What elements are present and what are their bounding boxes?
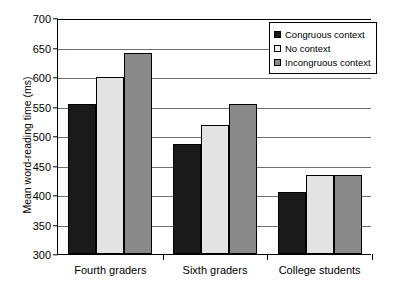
legend: Congruous contextNo contextIncongruous c…: [269, 22, 377, 74]
bar: [96, 77, 124, 254]
y-tick-label: 600: [33, 72, 51, 84]
bar: [201, 125, 229, 254]
bar-group: [163, 19, 268, 254]
x-tick-mark: [372, 254, 373, 260]
legend-swatch: [274, 59, 281, 66]
legend-item: Congruous context: [274, 27, 371, 41]
legend-item: Incongruous context: [274, 55, 371, 69]
y-tick-label: 550: [33, 102, 51, 114]
x-tick-label: Sixth graders: [183, 264, 248, 276]
y-tick-label: 450: [33, 161, 51, 173]
bar: [124, 53, 152, 254]
plot-area: 300350400450500550600650700 Fourth grade…: [57, 19, 371, 255]
y-tick-label: 650: [33, 43, 51, 55]
legend-label: Incongruous context: [285, 57, 371, 68]
bar: [306, 175, 334, 254]
bar: [334, 175, 362, 254]
y-tick-mark: [53, 254, 58, 255]
y-tick-label: 350: [33, 220, 51, 232]
legend-label: Congruous context: [285, 29, 365, 40]
y-tick-label: 500: [33, 131, 51, 143]
bar: [68, 104, 96, 254]
legend-swatch: [274, 45, 281, 52]
x-tick-label: College students: [279, 264, 361, 276]
legend-item: No context: [274, 41, 371, 55]
legend-swatch: [274, 31, 281, 38]
x-tick-label: Fourth graders: [74, 264, 146, 276]
y-tick-label: 400: [33, 190, 51, 202]
bar-group: [58, 19, 163, 254]
bar: [229, 104, 257, 254]
y-tick-label: 700: [33, 13, 51, 25]
bar: [278, 192, 306, 254]
y-tick-label: 300: [33, 249, 51, 261]
x-tick-mark: [267, 254, 268, 260]
bar-chart-figure: Mean word-reading time (ms) 300350400450…: [0, 0, 397, 290]
x-tick-mark: [163, 254, 164, 260]
legend-label: No context: [285, 43, 330, 54]
bar: [173, 144, 201, 254]
